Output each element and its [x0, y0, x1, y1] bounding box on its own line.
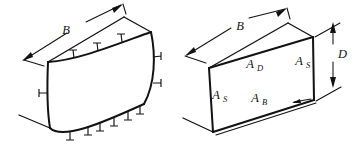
right-dimension-B-label: B: [236, 19, 244, 33]
panel-label-top-subscript: D: [256, 63, 264, 73]
duct-panel-figure: B B: [0, 0, 355, 147]
panel-label-bottom-A: A: [250, 91, 259, 105]
right-front-right-vertical-edge: [313, 37, 314, 100]
panel-label-top-A: A: [245, 57, 254, 71]
panel-label-bottom-subscript: B: [262, 97, 267, 107]
right-dimension-D-label: D: [337, 47, 347, 61]
left-dimension-B-label: B: [62, 23, 70, 37]
figure-background: [0, 0, 355, 147]
panel-label-side-left-A: A: [211, 88, 220, 102]
panel-label-side-right-A: A: [294, 54, 303, 68]
